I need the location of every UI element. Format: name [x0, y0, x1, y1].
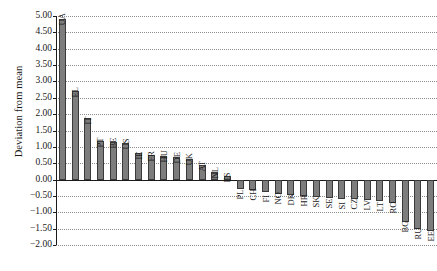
bar-label-uk: UK	[185, 154, 194, 166]
y-tick-label: 5.00	[35, 11, 52, 21]
bar-label-sk: SK	[312, 197, 321, 208]
bar-si	[338, 180, 345, 199]
y-tick-label: −1.00	[30, 208, 52, 218]
y-tick-label: 1.50	[35, 126, 52, 136]
bars: UAELITPTBEUSIEFRHUDEUKATNLESPLCHFINODKHR…	[56, 16, 437, 245]
y-tick-label: 0.50	[35, 158, 52, 168]
bar-label-lv: LV	[363, 200, 372, 211]
bar-it	[84, 118, 91, 180]
bar-label-lt: LT	[375, 202, 384, 212]
bar-label-fr: FR	[147, 151, 156, 161]
bar-ru	[414, 180, 421, 230]
bar-el	[72, 91, 79, 180]
bar-bg	[402, 180, 409, 223]
bar-label-si: SI	[337, 201, 346, 209]
y-tick-label: 4.50	[35, 28, 52, 38]
y-axis-title: Deviation from mean	[13, 42, 24, 182]
bar-label-no: NO	[274, 192, 283, 204]
bar-se	[326, 180, 333, 198]
bar-label-at: AT	[198, 161, 207, 171]
bar-ro	[389, 180, 396, 204]
bar-label-ro: RO	[388, 202, 397, 214]
bar-label-el: EL	[71, 87, 80, 97]
gridline	[56, 245, 437, 246]
bar-label-ie: IE	[134, 151, 143, 159]
bar-hr	[300, 180, 307, 196]
y-tick-mark	[53, 245, 56, 246]
y-tick-label: 2.00	[35, 109, 52, 119]
bar-cz	[351, 180, 358, 200]
bar-label-es: ES	[223, 172, 232, 182]
deviation-from-mean-bar-chart: Deviation from mean 5.004.504.003.503.00…	[0, 0, 437, 271]
bar-sk	[313, 180, 320, 198]
y-tick-label: −2.00	[30, 240, 52, 250]
bar-label-ch: CH	[248, 189, 257, 201]
bar-label-dk: DK	[286, 193, 295, 205]
y-tick-label: 3.50	[35, 60, 52, 70]
bar-label-cz: CZ	[350, 199, 359, 210]
bar-label-se: SE	[325, 198, 334, 208]
bar-label-hr: HR	[299, 195, 308, 207]
y-tick-label: 1.00	[35, 142, 52, 152]
bar-label-nl: NL	[210, 168, 219, 179]
y-tick-label: 0.00	[35, 175, 52, 185]
bar-label-us: US	[121, 139, 130, 150]
bar-label-fi: FI	[261, 195, 270, 203]
bar-label-bg: BG	[401, 221, 410, 233]
bar-label-ru: RU	[413, 228, 422, 240]
y-tick-label: 2.50	[35, 93, 52, 103]
bar-label-hu: HU	[159, 150, 168, 162]
bar-label-de: DE	[172, 152, 181, 163]
plot-area: 5.004.504.003.503.002.502.001.501.000.50…	[56, 16, 437, 245]
y-tick-label: 4.00	[35, 44, 52, 54]
bar-fi	[262, 180, 269, 192]
bar-label-be: BE	[109, 138, 118, 149]
bar-ee	[427, 180, 434, 232]
bar-label-ua: UA	[58, 13, 67, 25]
y-tick-label: −1.50	[30, 224, 52, 234]
y-tick-label: −0.50	[30, 191, 52, 201]
bar-pl	[237, 180, 244, 189]
bar-ua	[59, 19, 66, 179]
y-tick-label: 3.00	[35, 77, 52, 87]
bar-label-pt: PT	[96, 138, 105, 148]
bar-label-ee: EE	[426, 231, 435, 241]
bar-label-pl: PL	[236, 189, 245, 199]
bar-label-it: IT	[83, 117, 92, 125]
bar-lv	[364, 180, 371, 200]
bar-lt	[376, 180, 383, 202]
